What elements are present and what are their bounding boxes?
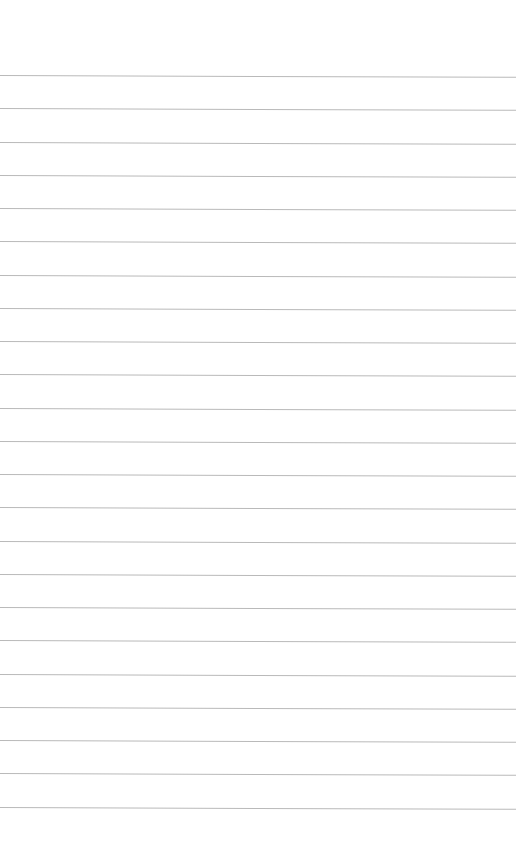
ruled-line (0, 408, 516, 411)
ruled-line (0, 142, 516, 145)
ruled-line (0, 807, 516, 810)
ruled-line (0, 374, 516, 377)
ruled-line (0, 707, 516, 710)
ruled-line (0, 75, 516, 78)
ruled-line (0, 241, 516, 244)
ruled-line (0, 308, 516, 311)
ruled-line (0, 441, 516, 444)
ruled-line (0, 674, 516, 677)
ruled-line (0, 208, 516, 211)
lined-paper-page (0, 0, 518, 859)
ruled-line (0, 175, 516, 178)
ruled-line (0, 341, 516, 344)
ruled-line (0, 474, 516, 477)
ruled-line (0, 740, 516, 743)
ruled-line (0, 607, 516, 610)
ruled-line (0, 507, 516, 510)
ruled-line (0, 541, 516, 544)
ruled-line (0, 275, 516, 278)
ruled-line (0, 108, 516, 111)
ruled-line (0, 773, 516, 776)
ruled-line (0, 640, 516, 643)
ruled-line (0, 574, 516, 577)
